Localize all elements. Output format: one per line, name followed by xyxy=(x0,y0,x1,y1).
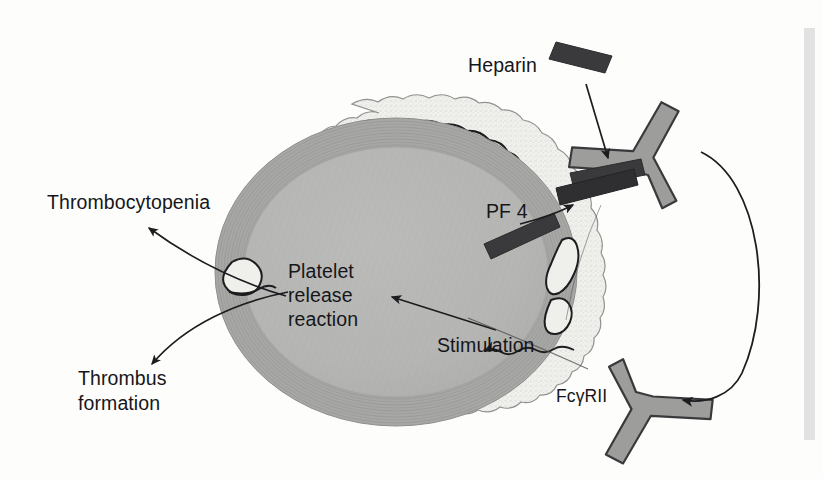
figure-root: Heparin PF 4 FcγRII Thrombocytopenia Pla… xyxy=(0,0,823,479)
platelet-release-line3: reaction xyxy=(288,308,358,330)
thrombus-line1: Thrombus xyxy=(78,367,167,389)
thrombocytopenia-label: Thrombocytopenia xyxy=(47,191,210,213)
thrombus-line2: formation xyxy=(78,392,160,414)
page-gutter-strip xyxy=(804,28,815,440)
hit-platelet-diagram: Heparin PF 4 FcγRII Thrombocytopenia Pla… xyxy=(0,0,823,479)
platelet-release-line2: release xyxy=(288,284,353,306)
stimulation-label: Stimulation xyxy=(437,334,535,356)
heparin-label: Heparin xyxy=(468,54,537,76)
fc-receptor-label: FcγRII xyxy=(556,386,607,406)
pf4-label: PF 4 xyxy=(486,200,528,222)
platelet-release-line1: Platelet xyxy=(288,260,354,282)
